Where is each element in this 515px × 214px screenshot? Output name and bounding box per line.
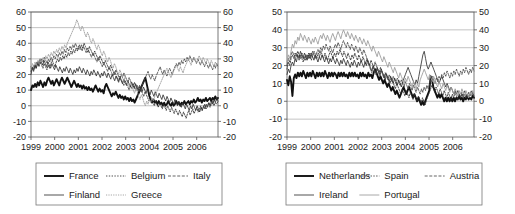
x-tick-label: 1999 bbox=[277, 142, 297, 152]
y-tick-label-right: 20 bbox=[223, 70, 233, 80]
legend-box bbox=[36, 163, 222, 205]
legend-label-austria: Austria bbox=[450, 170, 480, 181]
y-tick-label-right: -10 bbox=[479, 114, 492, 124]
legend-label-italy: Italy bbox=[193, 170, 211, 181]
y-tick-label-left: 60 bbox=[16, 7, 26, 17]
legend-label-finland: Finland bbox=[69, 189, 100, 200]
x-tick-label: 2001 bbox=[68, 142, 88, 152]
legend-label-belgium: Belgium bbox=[131, 170, 165, 181]
y-tick-label-right: 30 bbox=[223, 54, 233, 64]
y-tick-label-right: 40 bbox=[223, 38, 233, 48]
y-tick-label-left: -10 bbox=[13, 117, 26, 127]
y-tick-label-left: 20 bbox=[16, 70, 26, 80]
y-tick-label-right: 50 bbox=[223, 23, 233, 33]
y-tick-label-right: -20 bbox=[223, 132, 236, 142]
y-tick-label-left: 30 bbox=[272, 43, 282, 53]
y-tick-label-right: 20 bbox=[479, 61, 489, 71]
y-tick-label-left: 30 bbox=[16, 54, 26, 64]
y-tick-label-left: 10 bbox=[16, 85, 26, 95]
y-tick-label-right: 50 bbox=[479, 7, 489, 17]
chart-panel-right: -20-20-10-100010102020303040405050199920… bbox=[258, 0, 515, 214]
y-tick-label-right: 10 bbox=[223, 85, 233, 95]
y-tick-label-right: -20 bbox=[479, 132, 492, 142]
legend-label-spain: Spain bbox=[384, 170, 408, 181]
x-tick-label: 2005 bbox=[419, 142, 439, 152]
y-tick-label-left: -20 bbox=[269, 132, 282, 142]
y-tick-label-right: 30 bbox=[479, 43, 489, 53]
legend-label-ireland: Ireland bbox=[319, 189, 348, 200]
y-tick-label-left: 20 bbox=[272, 61, 282, 71]
figure-root: -20-20-10-100010102020303040405050606019… bbox=[0, 0, 515, 214]
y-tick-label-right: 0 bbox=[479, 96, 484, 106]
x-tick-label: 2001 bbox=[324, 142, 344, 152]
x-tick-label: 2003 bbox=[372, 142, 392, 152]
y-tick-label-left: 40 bbox=[272, 25, 282, 35]
x-tick-label: 2000 bbox=[301, 142, 321, 152]
x-tick-label: 2005 bbox=[163, 142, 183, 152]
x-tick-label: 2004 bbox=[395, 142, 415, 152]
y-tick-label-right: 40 bbox=[479, 25, 489, 35]
chart-right-content: -20-20-10-100010102020303040405050199920… bbox=[269, 7, 492, 205]
x-tick-label: 2002 bbox=[92, 142, 112, 152]
x-tick-label: 2004 bbox=[139, 142, 159, 152]
legend-label-portugal: Portugal bbox=[384, 189, 419, 200]
series-line-portugal bbox=[287, 30, 474, 98]
y-tick-label-left: 50 bbox=[16, 23, 26, 33]
y-tick-label-right: -10 bbox=[223, 117, 236, 127]
chart-panel-left: -20-20-10-100010102020303040405050606019… bbox=[0, 0, 257, 214]
legend-label-france: France bbox=[69, 170, 99, 181]
x-tick-label: 2002 bbox=[348, 142, 368, 152]
y-tick-label-left: 40 bbox=[16, 38, 26, 48]
x-tick-label: 2006 bbox=[187, 142, 207, 152]
x-tick-label: 1999 bbox=[21, 142, 41, 152]
x-tick-label: 2003 bbox=[116, 142, 136, 152]
y-tick-label-left: 0 bbox=[277, 96, 282, 106]
y-tick-label-left: -20 bbox=[13, 132, 26, 142]
series-line-greece bbox=[31, 20, 218, 106]
chart-svg-right: -20-20-10-100010102020303040405050199920… bbox=[258, 0, 515, 214]
y-tick-label-left: 10 bbox=[272, 79, 282, 89]
y-tick-label-right: 10 bbox=[479, 79, 489, 89]
chart-svg-left: -20-20-10-100010102020303040405050606019… bbox=[0, 0, 257, 214]
y-tick-label-right: 0 bbox=[223, 101, 228, 111]
x-tick-label: 2006 bbox=[443, 142, 463, 152]
chart-left-content: -20-20-10-100010102020303040405050606019… bbox=[13, 7, 236, 205]
y-tick-label-right: 60 bbox=[223, 7, 233, 17]
legend-label-greece: Greece bbox=[131, 189, 162, 200]
y-tick-label-left: 0 bbox=[21, 101, 26, 111]
y-tick-label-left: -10 bbox=[269, 114, 282, 124]
y-tick-label-left: 50 bbox=[272, 7, 282, 17]
x-tick-label: 2000 bbox=[45, 142, 65, 152]
